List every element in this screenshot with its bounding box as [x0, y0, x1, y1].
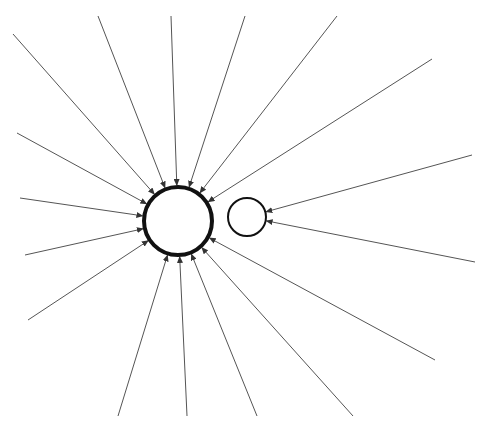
arrow-line [98, 16, 165, 188]
arrow-line [210, 238, 435, 360]
satellite-circle [228, 198, 266, 236]
arrow-line [180, 257, 187, 416]
radial-diagram [0, 0, 492, 434]
arrow-line [171, 16, 177, 185]
arrow-line [13, 34, 154, 194]
arrow-line [28, 241, 148, 320]
arrow-line [200, 16, 337, 193]
arrow-line [202, 248, 353, 416]
arrow-line [17, 133, 146, 204]
arrow-line [192, 254, 258, 416]
arrow-line [267, 221, 475, 262]
arrow-line [25, 229, 143, 255]
arrow-line [118, 255, 167, 416]
arrow-line [189, 16, 245, 187]
hub-circle [144, 187, 212, 255]
arrow-line [266, 155, 472, 212]
arrow-line [208, 59, 432, 202]
arrow-lines [13, 16, 475, 416]
arrow-line [20, 198, 142, 216]
